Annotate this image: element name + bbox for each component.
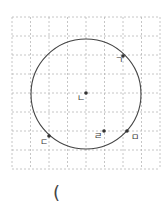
circle-grid-diagram: ㄱㄴㄷㄹㅁ bbox=[0, 0, 166, 208]
point-dot bbox=[102, 129, 106, 133]
answer-blank-open-paren: ( bbox=[53, 184, 60, 202]
point-label: ㅁ bbox=[131, 132, 139, 142]
point-dot bbox=[125, 129, 129, 133]
point-label: ㄹ bbox=[94, 131, 102, 141]
point-label: ㄴ bbox=[77, 93, 85, 103]
point-label: ㄱ bbox=[115, 55, 123, 65]
point-label: ㄷ bbox=[40, 137, 48, 147]
